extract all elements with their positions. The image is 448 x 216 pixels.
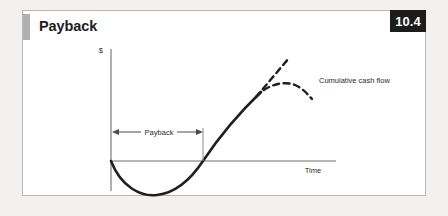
cumulative-cash-flow-curve	[111, 92, 261, 195]
payback-arrow-head-left	[112, 129, 119, 135]
payback-span-label: Payback	[145, 128, 174, 137]
payback-arrow-head-right	[196, 129, 203, 135]
x-axis-label: Time	[305, 166, 321, 175]
figure-card: Payback 10.4 $ Time Cumulative cash flow…	[22, 10, 426, 196]
payback-chart: $ Time Cumulative cash flow Payback	[23, 11, 427, 197]
y-axis-label: $	[99, 46, 104, 55]
series-label-cumulative-cash-flow: Cumulative cash flow	[319, 76, 390, 85]
